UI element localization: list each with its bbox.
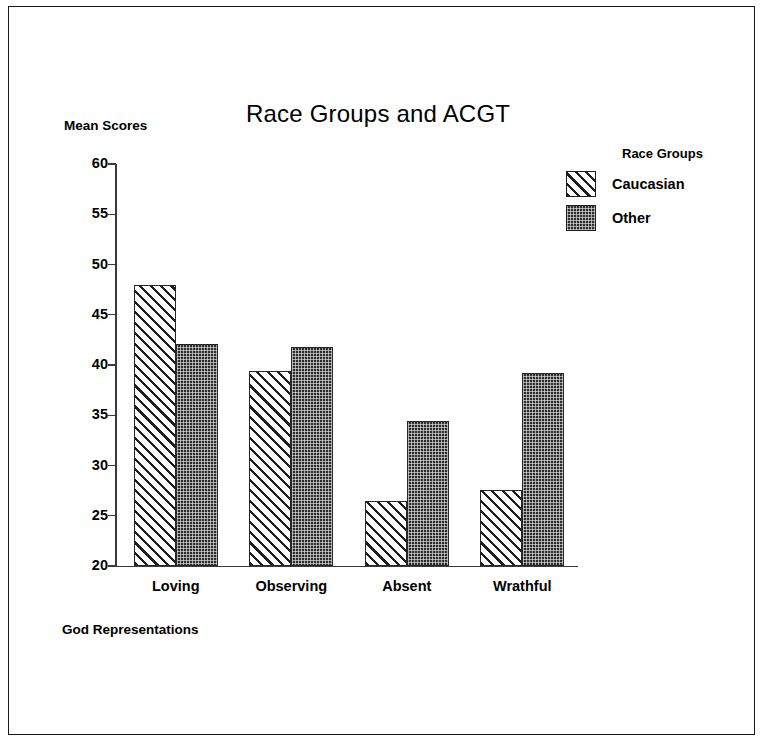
bar-absent-caucasian[interactable] [365, 501, 407, 566]
y-axis-tick-label: 45 [62, 306, 108, 322]
legend-item-caucasian[interactable]: Caucasian [566, 171, 756, 197]
y-axis-tick-label: 35 [62, 406, 108, 422]
legend: Race Groups Caucasian Other [566, 146, 756, 239]
x-axis-label-absent: Absent [382, 578, 431, 594]
chart-page: Race Groups and ACGT Mean Scores God Rep… [0, 0, 777, 747]
y-axis-tick-label: 55 [62, 205, 108, 221]
y-axis-tick-label: 25 [62, 507, 108, 523]
y-axis-tick [108, 565, 116, 566]
legend-swatch-caucasian [566, 171, 596, 197]
bar-observing-caucasian[interactable] [249, 371, 291, 566]
bar-loving-caucasian[interactable] [134, 285, 176, 566]
legend-swatch-other [566, 205, 596, 231]
x-axis-label-observing: Observing [255, 578, 327, 594]
x-axis-label-loving: Loving [152, 578, 200, 594]
legend-label-other: Other [612, 210, 651, 226]
bar-wrathful-other[interactable] [522, 373, 564, 566]
legend-item-other[interactable]: Other [566, 205, 756, 231]
y-axis-tick-label: 20 [62, 557, 108, 573]
bar-loving-other[interactable] [176, 344, 218, 566]
y-axis-tick [108, 314, 116, 315]
legend-label-caucasian: Caucasian [612, 176, 685, 192]
y-axis-tick [108, 163, 116, 164]
y-axis-tick [108, 264, 116, 265]
bar-absent-other[interactable] [407, 421, 449, 566]
legend-title: Race Groups [622, 146, 756, 161]
y-axis-tick-label: 40 [62, 356, 108, 372]
y-axis-tick [108, 364, 116, 365]
y-axis-tick [108, 214, 116, 215]
y-axis-tick [108, 515, 116, 516]
bar-wrathful-caucasian[interactable] [480, 490, 522, 566]
y-axis-tick [108, 415, 116, 416]
y-axis-tick-label: 60 [62, 155, 108, 171]
x-axis-title: God Representations [62, 622, 199, 637]
chart-title: Race Groups and ACGT [246, 100, 510, 128]
y-axis-tick-label: 50 [62, 256, 108, 272]
y-axis-tick-label: 30 [62, 457, 108, 473]
y-axis-tick [108, 465, 116, 466]
x-axis-label-wrathful: Wrathful [493, 578, 552, 594]
bar-observing-other[interactable] [291, 347, 333, 566]
y-axis-title: Mean Scores [64, 118, 147, 133]
